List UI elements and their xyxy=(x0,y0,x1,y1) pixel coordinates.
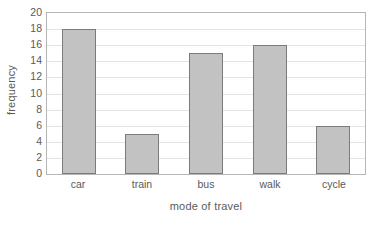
y-axis-tick-label: 6 xyxy=(36,119,42,130)
bar-chart: frequency 02468101214161820 cartrainbusw… xyxy=(0,0,382,227)
y-axis-tick-label: 8 xyxy=(36,103,42,114)
y-axis-tick-labels: 02468101214161820 xyxy=(20,12,46,175)
y-axis-title-text: frequency xyxy=(5,65,17,115)
y-axis-tick-label: 12 xyxy=(30,71,42,82)
y-axis-tick-label: 16 xyxy=(30,39,42,50)
y-axis-tick-label: 14 xyxy=(30,55,42,66)
y-axis-tick-label: 18 xyxy=(30,23,42,34)
bar-slot xyxy=(48,13,110,174)
y-axis-title: frequency xyxy=(0,0,22,180)
x-axis-tick-labels: cartrainbuswalkcycle xyxy=(46,178,366,194)
y-axis-tick-label: 4 xyxy=(36,136,42,147)
x-axis-tick-label-train: train xyxy=(111,178,173,194)
x-axis-tick-label-bus: bus xyxy=(175,178,237,194)
bar-slot xyxy=(175,13,237,174)
plot-area xyxy=(46,12,366,175)
bar-walk xyxy=(253,45,287,174)
bar-cycle xyxy=(316,126,350,174)
bar-series xyxy=(47,13,365,174)
y-axis-tick-label: 0 xyxy=(36,168,42,179)
x-axis-title: mode of travel xyxy=(46,200,366,212)
bar-slot xyxy=(239,13,301,174)
bar-train xyxy=(125,134,159,174)
y-axis-tick-label: 20 xyxy=(30,7,42,18)
bar-slot xyxy=(111,13,173,174)
x-axis-tick-label-car: car xyxy=(47,178,109,194)
y-axis-tick-label: 2 xyxy=(36,152,42,163)
bar-bus xyxy=(189,53,223,174)
bar-slot xyxy=(302,13,364,174)
y-axis-tick-label: 10 xyxy=(30,87,42,98)
x-axis-tick-label-walk: walk xyxy=(239,178,301,194)
bar-car xyxy=(62,29,96,174)
x-axis-tick-label-cycle: cycle xyxy=(303,178,365,194)
